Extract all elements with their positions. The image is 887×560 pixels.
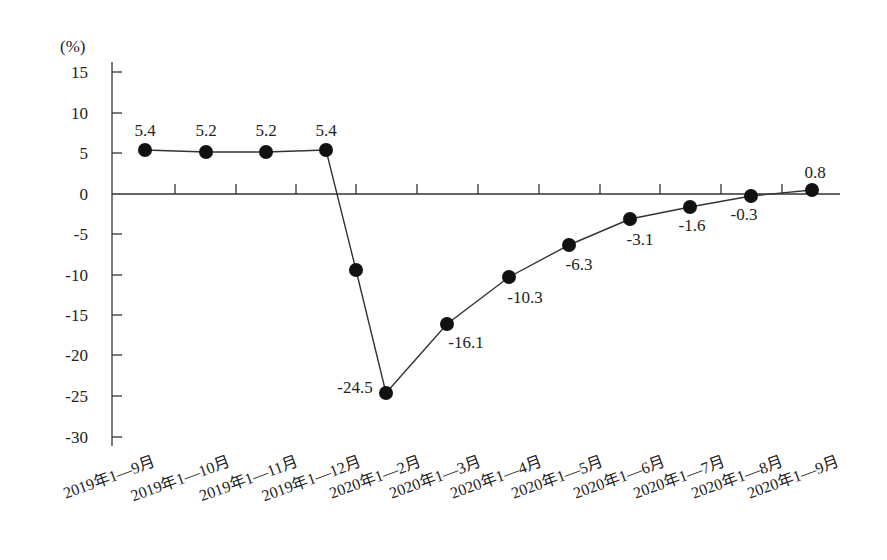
y-tick-label: -25	[65, 387, 88, 406]
data-labels: 5.4 5.2 5.2 5.4 -24.5 -16.1 -10.3 -6.3 -…	[134, 121, 825, 397]
data-point	[623, 212, 637, 226]
y-tick-label: -30	[65, 428, 88, 447]
y-tick-label: -20	[65, 346, 88, 365]
y-tick-label: 0	[80, 185, 89, 204]
y-tick-label: -10	[65, 266, 88, 285]
data-label: 5.2	[195, 121, 216, 140]
data-label: 5.2	[255, 121, 276, 140]
data-point	[744, 189, 758, 203]
y-tick-label: 5	[80, 144, 89, 163]
data-point	[138, 143, 152, 157]
series-markers	[138, 143, 819, 400]
data-point	[562, 238, 576, 252]
data-label: 5.4	[134, 121, 156, 140]
data-label: -10.3	[507, 288, 542, 307]
data-label: -1.6	[679, 216, 706, 235]
data-point	[440, 317, 454, 331]
data-point	[683, 200, 697, 214]
line-chart: (%) 15 10 5 0 -5 -10 -15 -20 -25 -30	[0, 0, 887, 560]
data-point	[805, 183, 819, 197]
y-axis-unit: (%)	[60, 37, 85, 56]
data-label: 0.8	[804, 163, 825, 182]
y-tick-label: -15	[65, 306, 88, 325]
y-tick-label: -5	[74, 225, 88, 244]
data-point	[319, 143, 333, 157]
y-axis-tick-labels: 15 10 5 0 -5 -10 -15 -20 -25 -30	[65, 63, 88, 447]
data-point	[379, 386, 393, 400]
data-point	[259, 145, 273, 159]
data-label: 5.4	[315, 121, 337, 140]
data-point	[199, 145, 213, 159]
y-tick-label: 15	[71, 63, 88, 82]
data-label: -6.3	[566, 255, 593, 274]
data-label: -0.3	[731, 205, 758, 224]
data-label: -24.5	[337, 378, 372, 397]
data-label: -16.1	[448, 333, 483, 352]
y-axis-ticks	[112, 72, 122, 437]
data-label: -3.1	[627, 230, 654, 249]
y-tick-label: 10	[71, 104, 88, 123]
data-point	[349, 263, 363, 277]
data-point	[502, 270, 516, 284]
x-axis-ticks	[175, 184, 782, 194]
x-axis-category-labels: 2019年1—9月 2019年1—10月 2019年1—11月 2019年1—1…	[61, 453, 841, 505]
